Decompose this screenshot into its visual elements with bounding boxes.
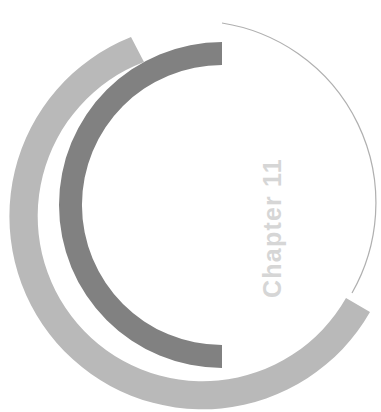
chapter-opener-page: Chapter 11 [0, 0, 381, 412]
decorative-rings-graphic [0, 0, 381, 412]
hairline-circle-outline-arc [222, 23, 376, 293]
